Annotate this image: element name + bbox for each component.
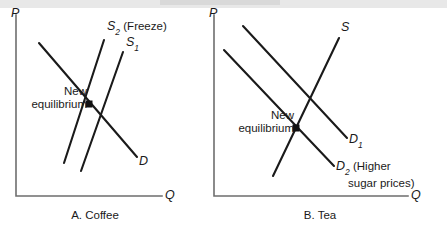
panel-b-y-axis-label: P [209, 6, 217, 20]
panel-b-demand-2-base: D [336, 159, 345, 173]
panel-a-x-axis-label: Q [165, 188, 175, 202]
panel-a-caption: A. Coffee [45, 209, 145, 221]
panel-a-y-axis-label: P [11, 6, 19, 20]
panel-b-demand-2-row: D2 (Higher [336, 160, 414, 177]
panel-b-curve-label-demand-2: D2 (Higher sugar prices) [336, 160, 414, 190]
panel-a-curve-label-supply-1: S1 [126, 36, 139, 53]
panel-a-curve-supply-1 [81, 52, 123, 171]
panel-b-demand-1-base: D [349, 132, 358, 146]
panel-a-equilibrium-annotation: New equilibrium [9, 85, 87, 110]
panel-b-demand-2-subscript: 2 [345, 167, 350, 177]
panel-b-equilibrium-line2: equilibrium [216, 122, 294, 135]
panel-b-equilibrium-line1: New [216, 109, 294, 122]
panel-b-curve-label-demand-1: D1 [349, 133, 363, 150]
panel-a-demand-base: D [139, 154, 148, 168]
panel-b-supply-base: S [341, 20, 349, 34]
panel-a-equilibrium-line1: New [9, 85, 87, 98]
panel-a-supply-2-note: (Freeze) [123, 20, 166, 32]
panel-b-demand-2-note-line1: (Higher [353, 160, 391, 172]
panel-b-caption: B. Tea [270, 209, 370, 221]
panel-b-equilibrium-annotation: New equilibrium [216, 109, 294, 134]
panel-b-demand-2-note-line2: sugar prices) [336, 177, 414, 190]
panel-a-supply-1-subscript: 1 [134, 43, 139, 53]
panel-b-curve-supply [273, 38, 339, 176]
panel-b-curve-demand-2 [224, 50, 334, 166]
panel-b-demand-1-subscript: 1 [358, 140, 363, 150]
panel-a-supply-2-subscript: 2 [115, 27, 120, 37]
panel-a-curve-label-demand: D [139, 155, 148, 168]
figure-root: P Q S2 (Freeze) S1 D New equilibrium A. … [0, 0, 447, 234]
panel-b-curve-label-supply: S [341, 21, 349, 34]
panel-a-curve-label-supply-2: S2 (Freeze) [107, 20, 167, 37]
panel-a-equilibrium-line2: equilibrium [9, 98, 87, 111]
